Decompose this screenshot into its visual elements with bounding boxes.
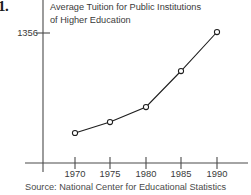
x-axis-label-1980: 1980: [129, 168, 163, 179]
data-point-1980: [143, 104, 148, 109]
tuition-line-series: [75, 32, 217, 133]
data-point-1975: [107, 119, 112, 124]
data-point-1970: [72, 130, 77, 135]
x-axis-label-1970: 1970: [58, 168, 92, 179]
x-axis-label-1985: 1985: [164, 168, 198, 179]
plot-area: [0, 0, 251, 195]
data-point-1985: [178, 68, 183, 73]
chart-figure: 1. Average Tuition for Public Institutio…: [0, 0, 251, 195]
source-note: Source: National Center for Educational …: [25, 182, 226, 193]
x-axis-label-1990: 1990: [200, 168, 234, 179]
data-point-1990: [214, 29, 219, 34]
x-axis-label-1975: 1975: [93, 168, 127, 179]
